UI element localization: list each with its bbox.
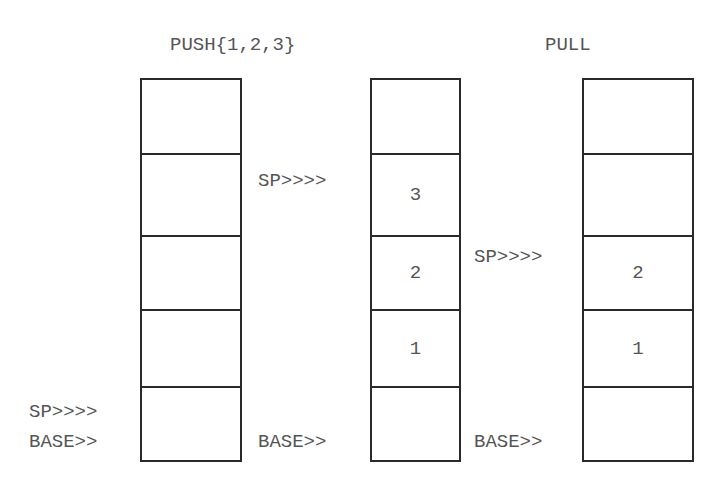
stack-after-push: 3 2 1: [370, 78, 461, 462]
stack-cell: 2: [584, 237, 692, 311]
sp-pointer-label: SP>>>>: [29, 401, 97, 423]
pull-title: PULL: [545, 34, 591, 56]
base-pointer-label: BASE>>: [29, 431, 97, 453]
stack-cell: [142, 80, 240, 155]
stack-cell: [142, 237, 240, 311]
stack-cell: [142, 388, 240, 460]
push-title: PUSH{1,2,3}: [170, 34, 295, 56]
base-pointer-label: BASE>>: [474, 431, 542, 453]
stack-cell: [372, 388, 459, 460]
stack-cell: [584, 155, 692, 237]
stack-cell: [142, 155, 240, 237]
stack-cell: [142, 311, 240, 388]
base-pointer-label: BASE>>: [258, 431, 326, 453]
sp-pointer-label: SP>>>>: [258, 170, 326, 192]
stack-cell: [584, 80, 692, 155]
stack-cell: 3: [372, 155, 459, 237]
stack-cell: 1: [372, 311, 459, 388]
sp-pointer-label: SP>>>>: [474, 246, 542, 268]
stack-after-pull: 2 1: [582, 78, 694, 462]
stack-cell: [372, 80, 459, 155]
stack-cell: 2: [372, 237, 459, 311]
stack-cell: [584, 388, 692, 460]
stack-initial: [140, 78, 242, 462]
stack-cell: 1: [584, 311, 692, 388]
